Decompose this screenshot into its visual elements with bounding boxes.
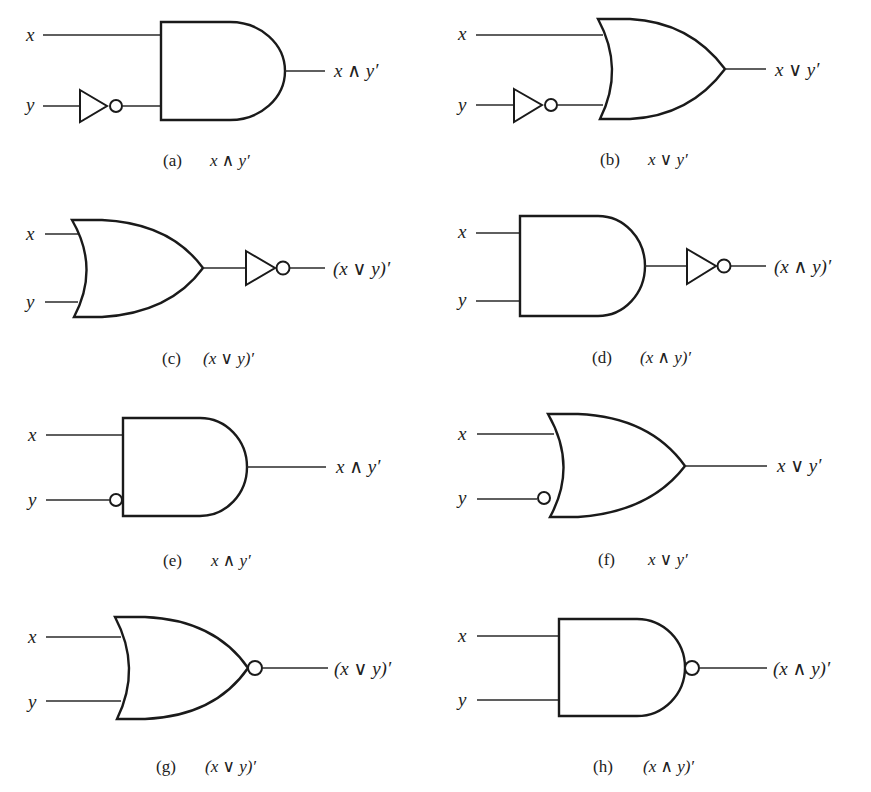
input-label-y: y xyxy=(24,94,35,115)
output-label: (x ∧ y)′ xyxy=(773,658,831,680)
caption-tag: (d) xyxy=(592,348,612,367)
panel-d: x y (x ∧ y)′ (d) (x ∧ y)′ xyxy=(456,216,832,367)
caption-tag: (b) xyxy=(600,150,620,169)
caption-expression: (x ∨ y)′ xyxy=(203,349,254,368)
caption-tag: (e) xyxy=(163,551,182,570)
negation-bubble-icon xyxy=(538,492,550,504)
caption-expression: (x ∨ y)′ xyxy=(205,757,256,776)
input-label-x: x xyxy=(25,223,35,244)
caption-expression: x ∨ y′ xyxy=(647,150,688,169)
and-gate-icon xyxy=(520,216,645,316)
caption-tag: (f) xyxy=(598,550,615,569)
caption-expression: (x ∧ y)′ xyxy=(643,757,694,776)
inverter-icon xyxy=(514,89,542,122)
negation-bubble-icon xyxy=(545,99,557,111)
output-label: x ∧ y′ xyxy=(333,60,379,81)
output-label: x ∨ y′ xyxy=(776,455,822,476)
input-label-x: x xyxy=(457,423,467,444)
caption-tag: (g) xyxy=(156,757,176,776)
output-label: (x ∨ y)′ xyxy=(333,258,391,280)
or-gate-icon xyxy=(548,414,685,517)
input-label-y: y xyxy=(26,691,37,712)
caption-expression: x ∧ y′ xyxy=(210,551,251,570)
negation-bubble-icon xyxy=(248,661,262,675)
inverter-icon xyxy=(80,90,107,122)
panel-g: x y (x ∨ y)′ (g) (x ∨ y)′ xyxy=(26,617,392,776)
negation-bubble-icon xyxy=(277,262,290,275)
panel-b: x y x ∨ y′ (b) x ∨ y′ xyxy=(456,19,820,169)
input-label-x: x xyxy=(27,424,37,445)
caption-tag: (c) xyxy=(162,349,181,368)
inverter-icon xyxy=(246,251,275,285)
nor-gate-icon xyxy=(115,617,248,719)
input-label-x: x xyxy=(27,626,37,647)
caption-expression: (x ∧ y)′ xyxy=(640,348,691,367)
input-label-x: x xyxy=(457,23,467,44)
and-gate-icon xyxy=(123,418,247,516)
input-label-y: y xyxy=(456,487,467,508)
caption-tag: (a) xyxy=(163,151,182,170)
or-gate-icon xyxy=(598,19,725,119)
panel-a: x y x ∧ y′ (a) x ∧ y′ xyxy=(24,22,379,170)
or-gate-icon xyxy=(72,220,203,317)
input-label-y: y xyxy=(24,291,35,312)
output-label: (x ∧ y)′ xyxy=(774,256,832,278)
caption-tag: (h) xyxy=(593,757,613,776)
negation-bubble-icon xyxy=(110,100,122,112)
inverter-icon xyxy=(687,249,716,284)
input-label-y: y xyxy=(456,94,467,115)
input-label-y: y xyxy=(456,689,467,710)
input-label-y: y xyxy=(456,289,467,310)
input-label-x: x xyxy=(457,221,467,242)
caption-expression: x ∨ y′ xyxy=(647,550,688,569)
panel-h: x y (x ∧ y)′ (h) (x ∧ y)′ xyxy=(456,619,831,776)
caption-expression: x ∧ y′ xyxy=(209,151,250,170)
negation-bubble-icon xyxy=(685,661,699,675)
panel-c: x y (x ∨ y)′ (c) (x ∨ y)′ xyxy=(24,220,391,368)
input-label-x: x xyxy=(457,625,467,646)
nand-gate-icon xyxy=(559,619,685,716)
and-gate-icon xyxy=(161,22,285,120)
negation-bubble-icon xyxy=(110,494,122,506)
output-label: (x ∨ y)′ xyxy=(334,658,392,680)
input-label-x: x xyxy=(25,24,35,45)
panel-f: x y x ∨ y′ (f) x ∨ y′ xyxy=(456,414,822,569)
negation-bubble-icon xyxy=(718,260,731,273)
panel-e: x y x ∧ y′ (e) x ∧ y′ xyxy=(26,418,381,570)
input-label-y: y xyxy=(26,489,37,510)
output-label: x ∧ y′ xyxy=(335,456,381,477)
output-label: x ∨ y′ xyxy=(774,59,820,80)
